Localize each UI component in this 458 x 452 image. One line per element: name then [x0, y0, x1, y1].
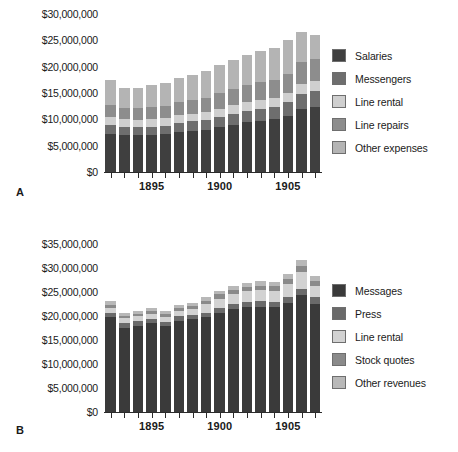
legend-item[interactable]: Line rental: [332, 327, 426, 346]
bar-segment-line-repairs: [187, 100, 198, 114]
bar-1905: [283, 274, 294, 412]
bar-1900: [214, 291, 225, 412]
x-tick: [206, 413, 207, 418]
bar-segment-line-rental: [255, 290, 266, 301]
y-tick-label: $30,000,000: [42, 9, 98, 19]
bar-1895: [146, 308, 157, 412]
bar-1907: [310, 35, 321, 172]
bar-segment-line-rental: [255, 100, 266, 109]
legend-item[interactable]: Other expenses: [332, 138, 428, 157]
legend-item[interactable]: Stock quotes: [332, 350, 426, 369]
bar-1894: [133, 88, 144, 172]
x-tick-label: 1900: [207, 420, 232, 432]
y-tick-label: $5,000,000: [47, 383, 98, 393]
bar-segment-line-rental: [310, 81, 321, 91]
bar-segment-other-expenses: [255, 51, 266, 82]
bar-1906: [296, 260, 307, 412]
legend-item[interactable]: Press: [332, 304, 426, 323]
legend-item[interactable]: Line rental: [332, 92, 428, 111]
x-tick-label: 1895: [139, 180, 164, 192]
y-tick-label: $0: [87, 407, 98, 417]
x-tick: [315, 413, 316, 418]
bar-segment-messengers: [214, 117, 225, 128]
bar-segment-messengers: [242, 111, 253, 123]
bar-segment-line-rental: [242, 102, 253, 111]
legend-item[interactable]: Line repairs: [332, 115, 428, 134]
bar-segment-messages: [228, 309, 239, 412]
bar-segment-other-expenses: [228, 60, 239, 89]
bar-segment-messages: [283, 303, 294, 412]
y-tick-label: $0: [87, 167, 98, 177]
bar-segment-other-expenses: [201, 71, 212, 98]
bar-segment-messages: [133, 326, 144, 412]
x-tick: [274, 173, 275, 178]
bar-segment-messengers: [201, 120, 212, 130]
bar-segment-salaries: [269, 119, 280, 172]
x-tick: [302, 413, 303, 418]
bar-segment-line-repairs: [310, 59, 321, 81]
x-tick: [247, 173, 248, 178]
bar-1897: [174, 305, 185, 412]
bar-segment-line-repairs: [255, 82, 266, 99]
bar-segment-other-expenses: [133, 88, 144, 109]
panel-letter-a: A: [16, 186, 24, 198]
legend-swatch-icon: [332, 95, 346, 108]
x-tick: [152, 173, 153, 178]
legend-swatch-icon: [332, 353, 346, 366]
bar-segment-salaries: [228, 125, 239, 172]
x-tick: [193, 413, 194, 418]
bar-segment-line-repairs: [146, 107, 157, 119]
bar-segment-salaries: [310, 107, 321, 172]
bar-segment-other-expenses: [187, 75, 198, 100]
bar-segment-messages: [174, 321, 185, 412]
bar-segment-line-repairs: [242, 85, 253, 102]
bar-segment-line-repairs: [160, 106, 171, 119]
y-tick-label: $20,000,000: [42, 62, 98, 72]
bar-segment-messages: [255, 307, 266, 412]
legend-item[interactable]: Messengers: [332, 69, 428, 88]
bar-segment-salaries: [255, 121, 266, 172]
bar-segment-line-repairs: [228, 89, 239, 105]
bar-segment-salaries: [133, 135, 144, 172]
legend-label: Press: [355, 308, 381, 320]
x-tick: [206, 173, 207, 178]
bar-segment-messages: [296, 295, 307, 412]
bar-segment-line-rental: [269, 291, 280, 302]
legend-item[interactable]: Salaries: [332, 46, 428, 65]
bar-1901: [228, 60, 239, 172]
bar-segment-line-repairs: [296, 62, 307, 83]
x-tick-label: 1905: [275, 420, 300, 432]
bar-1898: [187, 75, 198, 172]
bar-segment-messages: [146, 323, 157, 412]
y-tick-label: $5,000,000: [47, 141, 98, 151]
bar-segment-other-expenses: [119, 88, 130, 108]
legend-swatch-icon: [332, 49, 346, 62]
bar-segment-salaries: [187, 131, 198, 172]
bar-segment-line-rental: [228, 105, 239, 113]
x-tick: [261, 413, 262, 418]
x-tick: [288, 173, 289, 178]
bar-1893: [119, 313, 130, 412]
bar-segment-messengers: [310, 91, 321, 107]
x-tick: [315, 173, 316, 178]
bar-segment-line-rental: [133, 120, 144, 127]
y-tick-label: $35,000,000: [42, 239, 98, 249]
y-tick-label: $10,000,000: [42, 114, 98, 124]
bar-1896: [160, 311, 171, 412]
bar-segment-salaries: [242, 122, 253, 172]
bar-segment-salaries: [160, 134, 171, 172]
bar-segment-salaries: [174, 132, 185, 172]
bar-1893: [119, 88, 130, 172]
legend-item[interactable]: Messages: [332, 281, 426, 300]
bar-1901: [228, 286, 239, 412]
bar-1899: [201, 71, 212, 172]
x-tick: [302, 173, 303, 178]
chart-panel-b: $0$5,000,000$10,000,000$15,000,000$20,00…: [0, 228, 458, 452]
x-axis-line-a: [104, 172, 322, 173]
bar-segment-line-rental: [296, 84, 307, 94]
x-axis-line-b: [104, 412, 322, 413]
bar-segment-other-expenses: [105, 80, 116, 104]
legend-item[interactable]: Other revenues: [332, 373, 426, 392]
bar-segment-salaries: [119, 135, 130, 172]
bar-segment-other-expenses: [160, 83, 171, 106]
